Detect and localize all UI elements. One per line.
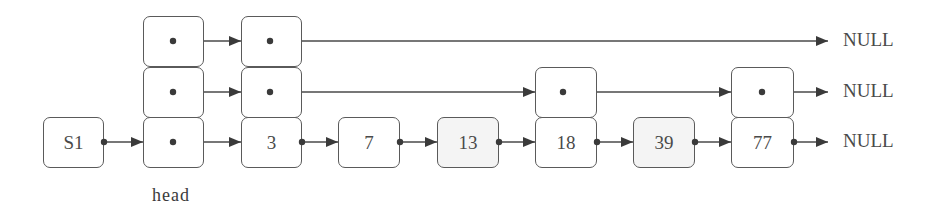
skip-list-diagram: S1 3 7 13 18 39 77 [0, 0, 937, 215]
null-label-level-2: NULL [843, 29, 894, 51]
null-label-level-1: NULL [843, 80, 894, 102]
pointer-dots [0, 0, 937, 215]
head-label: head [152, 185, 190, 206]
null-label-level-0: NULL [843, 130, 894, 152]
